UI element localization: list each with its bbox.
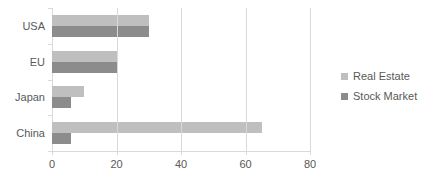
category-label: China bbox=[0, 127, 45, 139]
x-tick-mark bbox=[52, 151, 53, 155]
category-label: Japan bbox=[0, 91, 45, 103]
y-tick-mark bbox=[48, 44, 52, 45]
gridline bbox=[246, 8, 247, 151]
gridline bbox=[117, 8, 118, 151]
category-label: EU bbox=[0, 56, 45, 68]
bar bbox=[52, 51, 117, 62]
y-tick-mark bbox=[48, 151, 52, 152]
x-tick-label: 40 bbox=[166, 158, 196, 171]
category-label: USA bbox=[0, 20, 45, 32]
chart-legend: Real EstateStock Market bbox=[341, 66, 437, 106]
bar bbox=[52, 62, 117, 73]
x-tick-label: 60 bbox=[231, 158, 261, 171]
bar bbox=[52, 26, 149, 37]
gridline bbox=[310, 8, 311, 151]
y-tick-mark bbox=[48, 115, 52, 116]
legend-label: Stock Market bbox=[353, 90, 417, 103]
bar bbox=[52, 122, 262, 133]
x-tick-label: 80 bbox=[295, 158, 325, 171]
x-tick-mark bbox=[181, 151, 182, 155]
x-tick-label: 20 bbox=[102, 158, 132, 171]
gridline bbox=[181, 8, 182, 151]
x-tick-mark bbox=[246, 151, 247, 155]
x-tick-label: 0 bbox=[37, 158, 67, 171]
bar bbox=[52, 97, 71, 108]
bar-chart: USAEUJapanChina 020406080 Real EstateSto… bbox=[0, 0, 438, 182]
bar bbox=[52, 15, 149, 26]
bar bbox=[52, 133, 71, 144]
bar bbox=[52, 86, 84, 97]
y-tick-mark bbox=[48, 80, 52, 81]
y-tick-mark bbox=[48, 8, 52, 9]
legend-item[interactable]: Stock Market bbox=[341, 86, 437, 106]
category-labels: USAEUJapanChina bbox=[0, 0, 45, 182]
x-tick-mark bbox=[117, 151, 118, 155]
legend-item[interactable]: Real Estate bbox=[341, 66, 437, 86]
legend-swatch-icon bbox=[341, 73, 348, 80]
x-tick-mark bbox=[310, 151, 311, 155]
legend-label: Real Estate bbox=[353, 70, 410, 83]
legend-swatch-icon bbox=[341, 93, 348, 100]
